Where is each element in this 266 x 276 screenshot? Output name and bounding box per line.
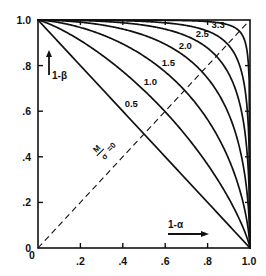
y-axis-title-group: 1-β bbox=[46, 50, 67, 81]
curve-label-0_5: 0.5 bbox=[125, 98, 139, 109]
curve-label-1_5: 1.5 bbox=[162, 57, 176, 68]
x-tick-label: 1.0 bbox=[242, 255, 257, 267]
param-value: =0 bbox=[105, 140, 118, 153]
x-tick-label: .4 bbox=[118, 255, 127, 267]
x-tick-label: 0 bbox=[29, 249, 35, 261]
x-tick-label: .2 bbox=[76, 255, 85, 267]
x-tick-label: .6 bbox=[161, 255, 170, 267]
curve-label-3_3: 3.3 bbox=[212, 19, 225, 30]
x-tick-label: .8 bbox=[203, 255, 212, 267]
y-tick-label: .8 bbox=[22, 60, 31, 72]
y-tick-label: .4 bbox=[22, 151, 31, 163]
x-axis-title-group: 1-α bbox=[168, 219, 209, 237]
curve-label-2_0: 2.0 bbox=[179, 40, 192, 51]
x-tick-labels: 0 .2 .4 .6 .8 1.0 bbox=[29, 249, 256, 267]
y-tick-labels: 1.0 .8 .6 .4 .2 0 bbox=[16, 14, 31, 254]
y-axis-title: 1-β bbox=[52, 70, 67, 81]
roc-chart: 1.0 .8 .6 .4 .2 0 0 .2 .4 .6 .8 1.0 1-β … bbox=[0, 0, 266, 276]
y-tick-label: .6 bbox=[22, 105, 31, 117]
param-denominator: σ bbox=[99, 151, 110, 162]
y-tick-label: .2 bbox=[22, 196, 31, 208]
baseline-parameter-annotation: M σ =0 bbox=[90, 134, 119, 163]
curve-label-1_0: 1.0 bbox=[144, 76, 157, 87]
curve-label-2_5: 2.5 bbox=[196, 28, 210, 39]
y-tick-label: 1.0 bbox=[16, 14, 31, 26]
roc-plot-svg: 1.0 .8 .6 .4 .2 0 0 .2 .4 .6 .8 1.0 1-β … bbox=[0, 0, 266, 276]
x-axis-title: 1-α bbox=[168, 219, 184, 230]
